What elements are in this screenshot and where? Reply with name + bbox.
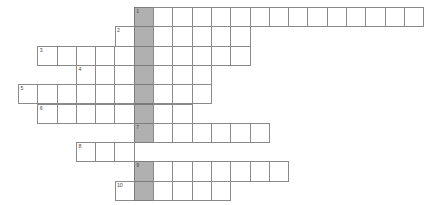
crossword-cell[interactable] bbox=[153, 104, 173, 124]
crossword-cell[interactable] bbox=[57, 104, 77, 124]
crossword-cell[interactable] bbox=[192, 46, 212, 66]
crossword-cell[interactable] bbox=[172, 46, 192, 66]
crossword-cell[interactable] bbox=[153, 161, 173, 181]
crossword-cell[interactable] bbox=[114, 65, 134, 85]
crossword-cell[interactable] bbox=[153, 123, 173, 143]
crossword-row-2: 2 bbox=[115, 26, 250, 46]
crossword-cell[interactable] bbox=[172, 26, 192, 46]
crossword-cell[interactable] bbox=[250, 161, 270, 181]
crossword-cell-highlighted[interactable]: 1 bbox=[134, 7, 154, 27]
crossword-cell[interactable] bbox=[172, 181, 192, 201]
crossword-cell[interactable] bbox=[250, 123, 270, 143]
crossword-cell[interactable] bbox=[76, 46, 96, 66]
crossword-cell[interactable] bbox=[95, 142, 115, 162]
crossword-cell[interactable] bbox=[211, 7, 231, 27]
crossword-cell[interactable] bbox=[172, 7, 192, 27]
crossword-cell[interactable] bbox=[153, 26, 173, 46]
crossword-cell-highlighted[interactable] bbox=[134, 104, 154, 124]
crossword-cell[interactable] bbox=[172, 84, 192, 104]
crossword-cell[interactable] bbox=[114, 104, 134, 124]
crossword-row-10: 10 bbox=[115, 181, 231, 201]
crossword-cell[interactable] bbox=[57, 46, 77, 66]
crossword-cell[interactable] bbox=[192, 26, 212, 46]
crossword-cell[interactable] bbox=[76, 84, 96, 104]
crossword-cell[interactable] bbox=[269, 7, 289, 27]
crossword-cell[interactable] bbox=[250, 7, 270, 27]
crossword-cell[interactable] bbox=[153, 84, 173, 104]
crossword-cell[interactable] bbox=[211, 46, 231, 66]
crossword-cell[interactable] bbox=[230, 46, 250, 66]
crossword-cell[interactable] bbox=[269, 161, 289, 181]
crossword-cell[interactable] bbox=[153, 46, 173, 66]
crossword-cell[interactable] bbox=[192, 65, 212, 85]
crossword-cell[interactable] bbox=[172, 104, 192, 124]
crossword-cell[interactable] bbox=[192, 84, 212, 104]
crossword-cell[interactable] bbox=[153, 65, 173, 85]
crossword-cell[interactable] bbox=[153, 7, 173, 27]
crossword-cell[interactable] bbox=[211, 123, 231, 143]
crossword-row-9: 9 bbox=[134, 161, 288, 181]
crossword-cell[interactable] bbox=[172, 123, 192, 143]
crossword-cell[interactable] bbox=[114, 142, 134, 162]
crossword-cell[interactable]: 4 bbox=[76, 65, 96, 85]
crossword-cell-highlighted[interactable] bbox=[134, 84, 154, 104]
crossword-cell[interactable] bbox=[385, 7, 405, 27]
crossword-cell-highlighted[interactable]: 7 bbox=[134, 123, 154, 143]
clue-number: 10 bbox=[117, 182, 122, 189]
crossword-row-1: 1 bbox=[134, 7, 423, 27]
crossword-cell[interactable] bbox=[95, 84, 115, 104]
crossword-row-6: 6 bbox=[37, 104, 191, 124]
crossword-cell[interactable] bbox=[95, 46, 115, 66]
crossword-cell[interactable] bbox=[95, 104, 115, 124]
clue-number: 5 bbox=[21, 85, 24, 92]
crossword-cell[interactable] bbox=[346, 7, 366, 27]
clue-number: 3 bbox=[40, 47, 43, 54]
crossword-cell-highlighted[interactable] bbox=[134, 181, 154, 201]
crossword-cell[interactable] bbox=[114, 46, 134, 66]
crossword-cell[interactable]: 2 bbox=[115, 26, 135, 46]
clue-number: 7 bbox=[136, 124, 139, 131]
crossword-cell[interactable] bbox=[211, 181, 231, 201]
crossword-cell[interactable] bbox=[76, 104, 96, 124]
crossword-cell[interactable] bbox=[230, 161, 250, 181]
crossword-cell[interactable] bbox=[192, 181, 212, 201]
crossword-row-7: 7 bbox=[134, 123, 269, 143]
crossword-cell-highlighted[interactable] bbox=[134, 46, 154, 66]
crossword-cell[interactable] bbox=[211, 161, 231, 181]
clue-number: 9 bbox=[136, 162, 139, 169]
crossword-row-5: 5 bbox=[18, 84, 211, 104]
crossword-cell[interactable]: 10 bbox=[115, 181, 135, 201]
crossword-cell[interactable] bbox=[192, 161, 212, 181]
crossword-cell[interactable] bbox=[307, 7, 327, 27]
crossword-cell[interactable] bbox=[230, 26, 250, 46]
crossword-cell[interactable] bbox=[153, 181, 173, 201]
crossword-cell[interactable] bbox=[114, 84, 134, 104]
crossword-cell[interactable] bbox=[95, 65, 115, 85]
crossword-cell[interactable] bbox=[288, 7, 308, 27]
crossword-cell[interactable]: 6 bbox=[37, 104, 57, 124]
crossword-cell[interactable] bbox=[230, 7, 250, 27]
crossword-cell-highlighted[interactable]: 9 bbox=[134, 161, 154, 181]
crossword-cell[interactable] bbox=[327, 7, 347, 27]
crossword-cell[interactable]: 5 bbox=[18, 84, 38, 104]
crossword-cell[interactable] bbox=[37, 84, 57, 104]
crossword-cell[interactable] bbox=[192, 123, 212, 143]
crossword-grid: 12345678910 bbox=[0, 0, 434, 205]
crossword-cell[interactable] bbox=[192, 7, 212, 27]
crossword-cell[interactable] bbox=[230, 123, 250, 143]
crossword-cell[interactable] bbox=[172, 161, 192, 181]
crossword-cell-highlighted[interactable] bbox=[134, 26, 154, 46]
clue-number: 6 bbox=[40, 105, 43, 112]
crossword-cell[interactable]: 3 bbox=[37, 46, 57, 66]
clue-number: 2 bbox=[117, 27, 120, 34]
crossword-cell[interactable]: 8 bbox=[76, 142, 96, 162]
crossword-cell[interactable] bbox=[57, 84, 77, 104]
clue-number: 4 bbox=[78, 66, 81, 73]
crossword-row-4: 4 bbox=[76, 65, 211, 85]
crossword-cell[interactable] bbox=[404, 7, 424, 27]
crossword-row-3: 3 bbox=[37, 46, 249, 66]
crossword-cell[interactable] bbox=[211, 26, 231, 46]
crossword-cell[interactable] bbox=[172, 65, 192, 85]
crossword-cell[interactable] bbox=[365, 7, 385, 27]
crossword-cell-highlighted[interactable] bbox=[134, 65, 154, 85]
